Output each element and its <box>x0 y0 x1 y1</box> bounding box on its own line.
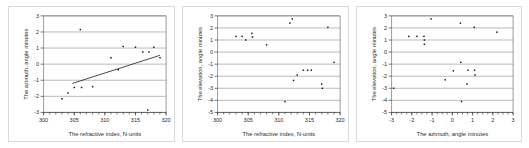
data-point <box>430 18 431 19</box>
data-point <box>122 46 123 47</box>
data-point <box>110 57 111 58</box>
chart-panel-azimuth-vs-refractive-index: 300305310315320-3-2-10123The refractive … <box>8 6 175 142</box>
data-point <box>80 29 81 30</box>
data-point <box>148 51 149 52</box>
data-point <box>321 83 322 84</box>
data-point <box>235 36 236 37</box>
x-axis-title: The refractive index, N-units <box>242 131 315 137</box>
data-point <box>423 36 424 37</box>
y-tick-label: 3 <box>36 13 39 19</box>
data-point <box>251 33 252 34</box>
x-tick-label: 310 <box>100 117 109 123</box>
trend-line <box>72 55 160 83</box>
figure-strip: 300305310315320-3-2-10123The refractive … <box>0 0 529 148</box>
data-point <box>81 87 82 88</box>
x-tick-label: 300 <box>39 117 48 123</box>
data-point <box>307 69 308 70</box>
y-tick-label: -3 <box>208 85 213 91</box>
data-point <box>311 69 312 70</box>
x-tick-label: -2 <box>409 117 414 123</box>
y-tick-label: 2 <box>36 29 39 35</box>
y-tick-label: 1 <box>210 37 213 43</box>
data-point <box>393 88 394 89</box>
data-point <box>245 39 246 40</box>
data-point <box>159 57 160 58</box>
data-point <box>153 47 154 48</box>
data-point <box>416 36 417 37</box>
y-tick-label: -2 <box>34 93 39 99</box>
y-tick-label: -1 <box>382 61 387 67</box>
y-tick-label: 2 <box>384 25 387 31</box>
x-tick-label: 1 <box>471 117 474 123</box>
data-point <box>496 31 497 32</box>
chart-panel-elevation-vs-refractive-index: 300305310315320-5-4-3-2-10123The refract… <box>182 6 349 142</box>
data-point <box>424 39 425 40</box>
data-point <box>408 36 409 37</box>
data-point <box>474 69 475 70</box>
x-tick-label: 320 <box>161 117 170 123</box>
y-tick-label: -2 <box>382 73 387 79</box>
data-point <box>61 98 62 99</box>
y-tick-label: -5 <box>382 109 387 115</box>
data-point <box>73 87 74 88</box>
scatter-chart-2: 300305310315320-5-4-3-2-10123The refract… <box>183 7 348 141</box>
y-tick-label: 0 <box>384 49 387 55</box>
x-tick-label: -3 <box>389 117 394 123</box>
data-point <box>466 83 467 84</box>
x-tick-label: 305 <box>70 117 79 123</box>
y-axis-title: The elevation, angle minutes <box>197 27 203 101</box>
y-axis-title: The elevation, angle minutes <box>371 27 377 101</box>
scatter-chart-1: 300305310315320-3-2-10123The refractive … <box>9 7 174 141</box>
data-point <box>445 79 446 80</box>
x-axis-title: The refractive index, N-units <box>68 131 141 137</box>
y-tick-label: 3 <box>384 13 387 19</box>
data-point <box>284 101 285 102</box>
data-point <box>241 36 242 37</box>
y-tick-label: 1 <box>36 45 39 51</box>
data-point <box>461 101 462 102</box>
y-tick-label: -5 <box>208 109 213 115</box>
y-tick-label: -4 <box>382 97 387 103</box>
x-tick-label: 310 <box>274 117 283 123</box>
data-point <box>460 22 461 23</box>
x-tick-label: 320 <box>335 117 344 123</box>
y-tick-label: 1 <box>384 37 387 43</box>
x-tick-label: 0 <box>451 117 454 123</box>
data-point <box>135 47 136 48</box>
y-tick-label: -3 <box>34 109 39 115</box>
data-point <box>67 92 68 93</box>
data-point <box>147 109 148 110</box>
data-point <box>252 36 253 37</box>
data-point <box>327 27 328 28</box>
data-point <box>292 18 293 19</box>
y-tick-label: -4 <box>208 97 213 103</box>
y-tick-label: -3 <box>382 85 387 91</box>
data-point <box>289 22 290 23</box>
x-tick-label: 3 <box>512 117 515 123</box>
data-point <box>453 70 454 71</box>
data-point <box>474 74 475 75</box>
y-axis-title: The azimuth, angle minutes <box>23 28 29 99</box>
data-point <box>424 43 425 44</box>
data-point <box>333 62 334 63</box>
data-point <box>460 62 461 63</box>
x-tick-label: 2 <box>491 117 494 123</box>
data-point <box>293 80 294 81</box>
data-point <box>92 86 93 87</box>
data-point <box>118 69 119 70</box>
data-point <box>473 27 474 28</box>
y-tick-label: -1 <box>34 77 39 83</box>
data-point <box>467 69 468 70</box>
y-tick-label: -1 <box>208 61 213 67</box>
x-axis-title: The azimuth, angle minutes <box>417 131 489 137</box>
x-tick-label: 315 <box>305 117 314 123</box>
y-tick-label: 3 <box>210 13 213 19</box>
x-tick-label: -1 <box>430 117 435 123</box>
data-point <box>322 88 323 89</box>
y-tick-label: 0 <box>210 49 213 55</box>
data-point <box>296 74 297 75</box>
y-tick-label: -2 <box>208 73 213 79</box>
scatter-chart-3: -3-2-10123-5-4-3-2-10123The azimuth, ang… <box>357 7 521 141</box>
y-tick-label: 2 <box>210 25 213 31</box>
x-tick-label: 300 <box>213 117 222 123</box>
